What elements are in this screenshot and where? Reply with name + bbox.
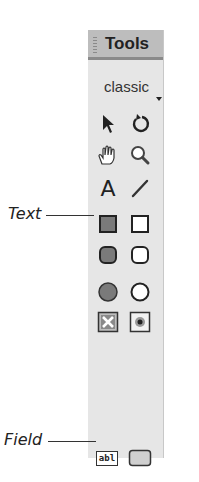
magnifier-icon [129, 144, 151, 166]
filled-oval-tool[interactable] [96, 280, 120, 304]
radio-button-icon [129, 311, 151, 333]
field-icon: abl [96, 451, 118, 466]
oval-icon [129, 281, 151, 303]
button-icon [128, 449, 152, 467]
arrow-pointer-icon [98, 113, 118, 135]
mode-selector[interactable]: classic [104, 78, 149, 95]
rectangle-icon [130, 214, 150, 234]
line-icon [129, 177, 151, 199]
hand-icon [96, 144, 120, 166]
rotate-icon [129, 113, 151, 135]
rotate-tool[interactable] [128, 112, 152, 136]
zoom-tool[interactable] [128, 143, 152, 167]
radio-button-tool[interactable] [128, 310, 152, 334]
filled-rounded-rectangle-tool[interactable] [96, 243, 120, 267]
panel-title-bar[interactable]: Tools [88, 30, 163, 60]
rectangle-tool[interactable] [128, 212, 152, 236]
filled-rounded-rectangle-icon [98, 245, 118, 265]
button-tool[interactable] [128, 446, 152, 470]
drag-grip-icon[interactable] [93, 37, 97, 53]
text-A-icon: A [100, 176, 115, 201]
panel-title: Tools [105, 34, 149, 54]
dropdown-arrow-icon[interactable] [156, 97, 162, 101]
line-tool[interactable] [128, 176, 152, 200]
field-callout-leader [48, 441, 96, 442]
rounded-rectangle-tool[interactable] [128, 243, 152, 267]
checkbox-tool[interactable] [96, 310, 120, 334]
filled-rectangle-tool[interactable] [96, 212, 120, 236]
filled-rectangle-icon [98, 214, 118, 234]
filled-oval-icon [97, 281, 119, 303]
oval-tool[interactable] [128, 280, 152, 304]
text-callout-leader [46, 215, 94, 216]
field-callout-label: Field [4, 430, 42, 449]
field-tool[interactable]: abl [95, 446, 119, 470]
tools-panel: Tools classic A [88, 30, 164, 458]
hand-tool[interactable] [96, 143, 120, 167]
text-callout-label: Text [8, 204, 41, 223]
pointer-tool[interactable] [96, 112, 120, 136]
text-tool[interactable]: A [96, 176, 120, 200]
rounded-rectangle-icon [130, 245, 150, 265]
checkbox-icon [97, 311, 119, 333]
